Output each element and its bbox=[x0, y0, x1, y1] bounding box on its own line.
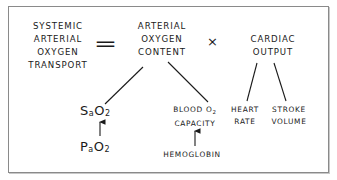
edge-output-to-heart-rate bbox=[247, 63, 257, 101]
edge-content-to-sao2 bbox=[105, 67, 143, 104]
edge-output-to-stroke-volume bbox=[274, 63, 286, 101]
diagram-connectors bbox=[0, 0, 337, 180]
edge-content-to-capacity bbox=[168, 62, 208, 102]
